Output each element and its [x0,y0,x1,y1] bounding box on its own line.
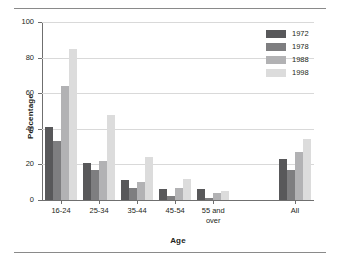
legend-item: 1978 [266,40,309,53]
x-tick-mark [295,200,296,204]
bar [107,115,115,200]
bar [91,170,99,200]
bar [83,163,91,200]
bar-group [42,22,80,200]
bar [99,161,107,200]
bar [183,179,191,200]
x-tick-mark [137,200,138,204]
legend-swatch [266,43,286,51]
bar [121,180,129,200]
x-tick-label: All [276,206,314,236]
x-tick-mark [99,200,100,204]
y-axis-title: Percentage [26,94,35,139]
legend-item: 1998 [266,66,309,79]
x-axis-labels: 16-2425-3435-4445-5455 and overAll [42,206,314,236]
bar-group [194,22,232,200]
bar [159,189,167,200]
legend-item: 1972 [266,27,309,40]
bar [213,193,221,200]
x-axis-line [42,200,314,201]
bar [205,198,213,200]
bar [279,159,287,200]
x-tick-label: 25-34 [80,206,118,236]
x-tick-label: 55 and over [194,206,232,236]
y-tick-label: 80 [12,54,34,62]
y-tick-mark [38,200,42,201]
legend-item: 1988 [266,53,309,66]
legend-label: 1998 [292,69,309,77]
x-tick-label: 16-24 [42,206,80,236]
legend: 1972197819881998 [266,27,309,79]
bar [137,182,145,200]
legend-label: 1988 [292,56,309,64]
bottom-divider-rule [14,252,326,253]
bar [303,139,311,200]
x-tick-mark [61,200,62,204]
bar [45,127,53,200]
bar [175,188,183,200]
label-spacer [232,206,276,236]
x-tick-label: 35-44 [118,206,156,236]
x-tick-mark [213,200,214,204]
x-tick-mark [175,200,176,204]
legend-label: 1972 [292,30,309,38]
y-tick-label: 0 [12,196,34,204]
legend-swatch [266,30,286,38]
legend-swatch [266,69,286,77]
legend-swatch [266,56,286,64]
bar [129,188,137,200]
bar-group [118,22,156,200]
y-tick-label: 100 [12,18,34,26]
legend-label: 1978 [292,43,309,51]
y-tick-label: 20 [12,160,34,168]
bar [295,152,303,200]
bar-group [156,22,194,200]
bar [167,196,175,200]
x-axis-title: Age [42,236,314,245]
bar [69,49,77,200]
bar [61,86,69,200]
bar-chart-figure: 020406080100 Percentage 16-2425-3435-444… [0,0,340,265]
bar [287,170,295,200]
top-divider-rule [14,8,326,9]
bar [221,191,229,200]
bar-group [80,22,118,200]
bar [53,141,61,200]
bar [197,189,205,200]
x-tick-label: 45-54 [156,206,194,236]
bar [145,157,153,200]
